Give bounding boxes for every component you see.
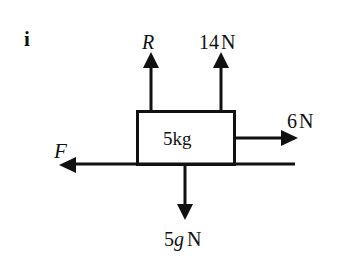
mass-label: 5kg xyxy=(163,128,192,149)
pull-right-label: 6N xyxy=(287,110,313,132)
pull-up-label: 14N xyxy=(199,31,235,53)
weight-label: 5gN xyxy=(164,228,201,251)
pull-up-unit: N xyxy=(221,31,235,53)
pull-right-arrowhead-icon xyxy=(281,130,298,146)
weight-value: 5 xyxy=(164,228,174,250)
weight-g: g xyxy=(174,228,184,251)
part-label: i xyxy=(24,27,30,51)
pull-up-value: 14 xyxy=(199,31,219,53)
weight-unit: N xyxy=(187,228,201,250)
weight-arrowhead-icon xyxy=(177,204,193,220)
pull-up-arrowhead-icon xyxy=(213,52,229,68)
pull-right-unit: N xyxy=(299,110,313,132)
reaction-label: R xyxy=(141,31,154,53)
pull-right-value: 6 xyxy=(287,110,297,132)
reaction-arrowhead-icon xyxy=(143,52,159,68)
friction-label: F xyxy=(53,139,67,163)
force-diagram: i F 5kg R 14N 6N 5gN xyxy=(0,0,337,268)
